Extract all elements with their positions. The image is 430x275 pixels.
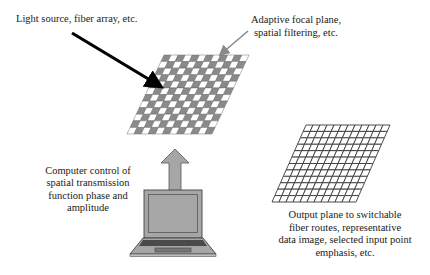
computer-control-label: Computer control of spatial transmission…: [45, 165, 131, 213]
focal-plane-pointer-arrow: [221, 31, 248, 54]
laptop-icon: [130, 190, 216, 257]
light-source-label: Light source, fiber array, etc.: [16, 13, 137, 24]
output-label-line-2: fiber routes, representative: [289, 222, 402, 233]
computer-label-line-4: amplitude: [67, 202, 109, 213]
output-label-line-4: emphasis, etc.: [315, 247, 374, 258]
computer-label-line-3: function phase and: [48, 190, 128, 201]
laptop-base-edge: [130, 254, 216, 257]
control-up-arrow: [161, 149, 189, 191]
diagram-canvas: Light source, fiber array, etc. Adaptive…: [0, 0, 430, 275]
laptop-trackpad: [155, 248, 191, 252]
laptop-screen-display: [149, 195, 198, 233]
focal-plane-label-line-1: Adaptive focal plane,: [251, 14, 341, 25]
output-plane-grid: [272, 125, 390, 202]
computer-label-line-2: spatial transmission: [46, 177, 130, 188]
light-source-arrow: [72, 33, 160, 86]
computer-label-line-1: Computer control of: [45, 165, 131, 176]
focal-plane-label: Adaptive focal plane, spatial filtering,…: [251, 14, 341, 38]
focal-plane-label-line-2: spatial filtering, etc.: [254, 27, 338, 38]
laptop-keyboard: [139, 240, 207, 246]
output-label-line-3: data image, selected input point: [278, 234, 411, 245]
output-plane-label: Output plane to switchable fiber routes,…: [278, 209, 411, 258]
output-label-line-1: Output plane to switchable: [289, 209, 402, 220]
adaptive-focal-plane-grid: [127, 55, 249, 134]
